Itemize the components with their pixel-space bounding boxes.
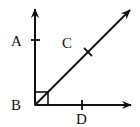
ray-bc: [35, 10, 130, 105]
label-d: D: [76, 111, 87, 127]
angle-diagram: A B C D: [0, 0, 140, 127]
label-a: A: [11, 33, 22, 49]
label-b: B: [11, 97, 21, 113]
label-c: C: [62, 35, 72, 51]
